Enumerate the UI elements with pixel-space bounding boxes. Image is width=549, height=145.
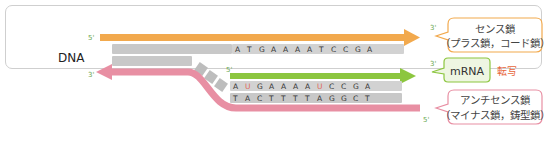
sense-strand: 5' 3': [88, 24, 436, 46]
svg-text:A: A: [317, 94, 323, 103]
mrna-3prime-label: 3': [430, 60, 436, 68]
svg-text:C: C: [343, 45, 348, 54]
sense-arrowhead-icon: [404, 29, 420, 46]
sense-3prime-label: 3': [430, 24, 436, 32]
svg-text:A: A: [233, 82, 239, 91]
svg-text:G: G: [257, 82, 263, 91]
svg-text:G: G: [259, 45, 265, 54]
mrna-callout: mRNA: [432, 58, 490, 82]
svg-text:T: T: [318, 45, 324, 54]
antisense-paired-backbone: [112, 56, 192, 66]
svg-text:T: T: [280, 94, 286, 103]
transcription-diagram: DNA 5' 3' A T G A A A A T C C G A 3' 5': [0, 0, 549, 145]
svg-text:T: T: [292, 94, 298, 103]
svg-text:T: T: [304, 94, 310, 103]
svg-text:C: C: [341, 82, 346, 91]
transcription-label: 転写: [497, 66, 517, 77]
svg-text:A: A: [293, 82, 299, 91]
mrna-backbone: [230, 81, 402, 91]
antisense-3prime-label: 3': [88, 71, 94, 79]
svg-text:A: A: [307, 45, 313, 54]
svg-text:U: U: [245, 82, 251, 91]
svg-text:A: A: [269, 82, 275, 91]
svg-text:T: T: [246, 45, 252, 54]
antisense-arrowhead-icon: [96, 64, 112, 80]
mrna-label: mRNA: [450, 65, 485, 78]
svg-text:C: C: [257, 94, 262, 103]
svg-text:A: A: [281, 82, 287, 91]
mrna-strand: 5' 3': [226, 60, 436, 84]
sense-callout: センス鎖 （プラス鎖，コード鎖）: [436, 18, 549, 52]
svg-text:A: A: [235, 45, 241, 54]
svg-text:G: G: [329, 94, 335, 103]
mrna-arrowhead-icon: [400, 68, 416, 84]
antisense-label: アンチセンス鎖: [460, 94, 531, 106]
svg-text:G: G: [355, 45, 361, 54]
antisense-5prime-label: 5': [423, 116, 429, 124]
antisense-template-backbone: [230, 93, 402, 103]
antisense-alt-names: （マイナス鎖，鋳型鎖）: [440, 109, 549, 121]
svg-text:T: T: [364, 94, 370, 103]
sense-5prime-label: 5': [88, 34, 94, 42]
svg-text:A: A: [365, 82, 371, 91]
svg-text:C: C: [331, 45, 336, 54]
svg-text:A: A: [295, 45, 301, 54]
sense-label: センス鎖: [475, 23, 516, 35]
svg-text:A: A: [283, 45, 289, 54]
svg-text:C: C: [353, 94, 358, 103]
sense-alt-names: （プラス鎖，コード鎖）: [440, 37, 549, 49]
svg-text:C: C: [329, 82, 334, 91]
antisense-callout: アンチセンス鎖 （マイナス鎖，鋳型鎖）: [436, 90, 549, 124]
svg-text:A: A: [305, 82, 311, 91]
svg-text:A: A: [245, 94, 251, 103]
svg-text:G: G: [341, 94, 347, 103]
svg-text:G: G: [353, 82, 359, 91]
svg-text:A: A: [367, 45, 373, 54]
svg-text:T: T: [268, 94, 274, 103]
mrna-5prime-label: 5': [226, 66, 232, 74]
svg-text:T: T: [232, 94, 238, 103]
dna-label: DNA: [58, 51, 85, 65]
svg-text:A: A: [271, 45, 277, 54]
svg-text:U: U: [317, 82, 323, 91]
